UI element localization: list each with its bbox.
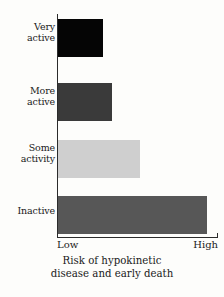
chart-caption: Risk of hypokinetic disease and early de… xyxy=(18,255,206,280)
chart-caption-line1: Risk of hypokinetic xyxy=(18,255,206,268)
x-axis-label-low: Low xyxy=(57,239,78,251)
bar-category-label: Very active xyxy=(3,21,55,44)
x-axis-label-high: High xyxy=(158,239,218,251)
chart-caption-line2: disease and early death xyxy=(18,268,206,281)
bar-category-label-line1: Inactive xyxy=(17,205,55,216)
bar-some-activity xyxy=(58,140,140,178)
bar-category-label-line1: More xyxy=(30,85,55,96)
bar-category-label: More active xyxy=(3,85,55,108)
x-axis-line xyxy=(57,237,218,238)
y-axis-line xyxy=(57,14,58,238)
bar-very-active xyxy=(58,19,103,57)
bar-category-label: Inactive xyxy=(3,205,55,216)
bar-category-label-line2: activity xyxy=(21,153,55,164)
bar-inactive xyxy=(58,196,207,234)
bar-category-label-line2: active xyxy=(27,32,55,43)
bar-category-label-line1: Very xyxy=(34,21,55,32)
x-axis-tick-low xyxy=(57,233,58,237)
bar-chart: Very active More active Some activity In… xyxy=(0,0,224,297)
bar-more-active xyxy=(58,83,112,121)
bar-category-label-line2: active xyxy=(27,96,55,107)
bar-category-label: Some activity xyxy=(3,142,55,165)
bar-category-label-line1: Some xyxy=(29,142,55,153)
x-axis-tick-high xyxy=(217,233,218,237)
